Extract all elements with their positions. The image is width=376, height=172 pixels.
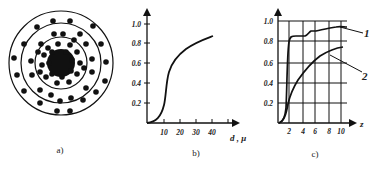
panel-a-particle-diagram: a): [9, 11, 113, 155]
c-x-axis-arrow-icon: [349, 119, 357, 127]
figure-canvas: a) 1.0 0.8 0.6 0.4 0.2 10 20 30 40 d , μ…: [0, 0, 376, 172]
b-x-tick-20: 20: [175, 128, 184, 137]
c-y-tick-0.2: 0.2: [264, 99, 274, 108]
b-ticks: [144, 24, 228, 123]
panel-b-label: b): [192, 148, 200, 158]
c-x-tick-4: 4: [300, 127, 305, 136]
c-curve-2-label: 2: [361, 70, 368, 82]
c-grid: [278, 21, 347, 123]
b-y-tick-1.0: 1.0: [132, 20, 142, 29]
b-y-tick-0.2: 0.2: [132, 99, 142, 108]
c-curve-1-label: 1: [364, 27, 370, 39]
particles: [11, 18, 109, 114]
c-x-tick-2: 2: [286, 127, 291, 136]
panel-a-label: a): [57, 145, 64, 155]
b-x-axis-arrow-icon: [232, 119, 240, 127]
c-y-tick-1.0: 1.0: [264, 17, 274, 26]
c-x-tick-8: 8: [327, 127, 331, 136]
c-y-axis-arrow-icon: [274, 8, 282, 16]
panel-c-chart: 1.0 0.8 0.6 0.4 0.2 2 4 6 8 10 z 1 2 c): [264, 8, 370, 159]
b-x-axis-label: d , μ: [230, 133, 246, 143]
b-y-axis-arrow-icon: [143, 8, 151, 16]
c-y-tick-0.6: 0.6: [264, 59, 274, 68]
c-x-tick-6: 6: [313, 127, 317, 136]
b-y-tick-0.4: 0.4: [132, 79, 142, 88]
b-x-tick-10: 10: [160, 128, 168, 137]
c-leader-1: [340, 27, 363, 33]
b-curve: [147, 36, 213, 123]
b-x-tick-40: 40: [207, 128, 216, 137]
panel-b-chart: 1.0 0.8 0.6 0.4 0.2 10 20 30 40 d , μ b): [132, 8, 247, 158]
c-y-tick-0.8: 0.8: [264, 37, 274, 46]
c-y-tick-0.4: 0.4: [264, 79, 274, 88]
c-x-axis-label: z: [359, 119, 364, 129]
b-x-tick-30: 30: [191, 128, 200, 137]
c-x-tick-10: 10: [337, 127, 345, 136]
panel-c-label: c): [312, 149, 319, 159]
b-y-tick-0.6: 0.6: [132, 59, 142, 68]
b-y-tick-0.8: 0.8: [132, 39, 142, 48]
